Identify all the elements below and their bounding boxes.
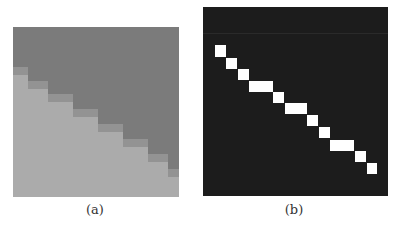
edge-pixel-block: [285, 103, 307, 114]
caption-b: (b): [274, 202, 314, 217]
caption-a: (a): [75, 202, 115, 217]
edge-pixel-block: [307, 115, 318, 126]
grayscale-edge-image: [13, 27, 179, 197]
edge-pixel-block: [273, 92, 284, 103]
panel-a-grayscale-patch: [13, 27, 179, 197]
edge-pixel-block: [355, 151, 366, 162]
edge-pixel-block: [367, 163, 377, 174]
edge-pixel-block: [330, 140, 354, 151]
edge-pixel-block: [226, 58, 237, 69]
panel-b-edge-map: [203, 7, 388, 196]
edge-pixel-block: [215, 45, 226, 57]
edge-pixel-block: [319, 127, 330, 138]
binary-edge-map: [203, 7, 388, 196]
edge-pixel-block: [238, 69, 249, 80]
edge-pixel-block: [249, 81, 273, 92]
